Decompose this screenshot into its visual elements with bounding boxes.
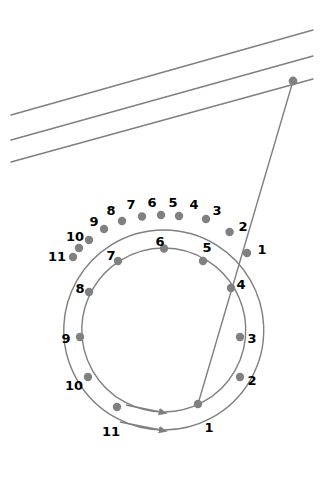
- inner-node-label-8: 8: [75, 281, 84, 296]
- inner-node-label-9: 9: [61, 331, 70, 346]
- outer-node-7[interactable]: [118, 217, 126, 225]
- inner-node-label-10: 10: [65, 378, 83, 393]
- inner-node-label-11: 11: [102, 424, 120, 439]
- inner-circle-path: [82, 248, 246, 412]
- inner-node-4[interactable]: [227, 284, 235, 292]
- outer-node-label-6: 6: [147, 195, 156, 210]
- outer-node-label-3: 3: [212, 203, 221, 218]
- parallel-line-1: [11, 30, 313, 115]
- outer-node-3[interactable]: [202, 215, 210, 223]
- outer-node-1[interactable]: [243, 249, 251, 257]
- outer-node-4[interactable]: [175, 212, 183, 220]
- inner-node-1[interactable]: [194, 400, 202, 408]
- inner-node-3[interactable]: [236, 333, 244, 341]
- outer-circle-arrow: [120, 422, 163, 431]
- inner-node-2[interactable]: [236, 373, 244, 381]
- outer-node-label-8: 8: [106, 203, 115, 218]
- ray-origin-node[interactable]: [289, 77, 298, 86]
- outer-node-label-7: 7: [126, 197, 135, 212]
- outer-node-label-11: 11: [48, 249, 66, 264]
- inner-node-label-6: 6: [155, 234, 164, 249]
- outer-node-label-4: 4: [189, 197, 198, 212]
- inner-circle-arrow: [126, 405, 163, 413]
- outer-node-10[interactable]: [75, 244, 83, 252]
- inner-node-10[interactable]: [84, 373, 92, 381]
- outer-node-9[interactable]: [85, 236, 93, 244]
- parallel-line-2: [11, 56, 313, 140]
- diagram-canvas: 1234567891011 1234567891011: [0, 0, 327, 485]
- inner-node-label-2: 2: [247, 373, 256, 388]
- parallel-lines-group: [11, 30, 313, 162]
- outer-circle-track: [64, 230, 264, 430]
- outer-node-2[interactable]: [225, 228, 233, 236]
- outer-node-8[interactable]: [100, 225, 108, 233]
- inner-node-11[interactable]: [113, 403, 121, 411]
- outer-nodes-group: 1234567891011: [48, 195, 267, 264]
- inner-circle-track: [82, 248, 246, 412]
- outer-node-label-5: 5: [168, 195, 177, 210]
- outer-circle-path: [64, 230, 264, 430]
- inner-node-label-5: 5: [202, 240, 211, 255]
- outer-node-label-2: 2: [238, 219, 247, 234]
- inner-node-9[interactable]: [76, 333, 84, 341]
- outer-node-label-10: 10: [66, 229, 84, 244]
- outer-node-label-9: 9: [89, 214, 98, 229]
- inner-node-label-3: 3: [247, 331, 256, 346]
- inner-node-label-1: 1: [204, 420, 213, 435]
- parallel-line-3: [11, 79, 313, 162]
- inner-node-label-4: 4: [236, 277, 245, 292]
- outer-node-6[interactable]: [138, 212, 146, 220]
- inner-node-5[interactable]: [199, 257, 207, 265]
- inner-node-label-7: 7: [106, 248, 115, 263]
- outer-node-11[interactable]: [69, 253, 77, 261]
- outer-node-label-1: 1: [257, 242, 266, 257]
- outer-node-5[interactable]: [157, 211, 165, 219]
- inner-node-8[interactable]: [85, 288, 93, 296]
- diagram-svg: 1234567891011 1234567891011: [0, 0, 327, 485]
